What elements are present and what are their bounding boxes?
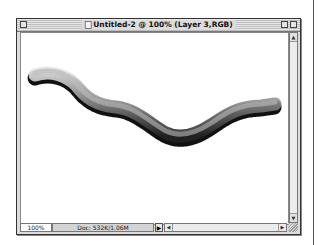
horizontal-scrollbar[interactable]: ◀ ▶	[164, 223, 287, 232]
document-icon	[84, 21, 91, 29]
document-size-info: Doc: 532K/1.06M	[52, 223, 154, 232]
collapse-box-icon[interactable]	[290, 21, 297, 28]
vertical-scrollbar[interactable]: ▲ ▼	[289, 32, 298, 223]
scroll-up-arrow-icon[interactable]: ▲	[290, 33, 297, 42]
window-title-text: Untitled-2 @ 100% (Layer 3,RGB)	[93, 20, 233, 30]
resize-grip-icon[interactable]	[288, 223, 298, 232]
title-bar[interactable]: Untitled-2 @ 100% (Layer 3,RGB)	[17, 19, 300, 32]
scroll-left-arrow-icon[interactable]: ◀	[165, 224, 173, 231]
close-box-icon[interactable]	[20, 21, 27, 28]
image-canvas[interactable]	[20, 32, 289, 225]
zoom-box-icon[interactable]	[281, 21, 288, 28]
window-title: Untitled-2 @ 100% (Layer 3,RGB)	[81, 20, 236, 30]
brush-stroke	[21, 33, 288, 224]
scroll-right-arrow-icon[interactable]: ▶	[278, 224, 286, 231]
status-menu-arrow-icon[interactable]: ▶	[155, 223, 163, 232]
scroll-down-arrow-icon[interactable]: ▼	[290, 213, 297, 222]
background-divider-line	[313, 0, 314, 245]
zoom-level-field[interactable]: 100%	[20, 223, 52, 232]
document-window: Untitled-2 @ 100% (Layer 3,RGB)	[16, 18, 301, 235]
status-bar: 100% Doc: 532K/1.06M ▶ ◀ ▶	[20, 223, 298, 232]
